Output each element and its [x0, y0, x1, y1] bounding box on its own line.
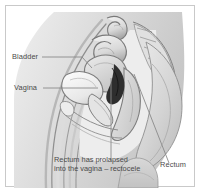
caption-line-2: into the vagina – rectocele: [54, 164, 140, 173]
label-rectum: Rectum: [160, 161, 186, 170]
label-vagina: Vagina: [14, 84, 37, 93]
caption-line-1: Rectum has prolapsed: [54, 155, 140, 164]
caption-rectocele: Rectum has prolapsed into the vagina – r…: [54, 155, 140, 174]
label-bladder: Bladder: [12, 53, 38, 62]
rectocele-figure: Bladder Vagina Rectum Rectum has prolaps…: [0, 0, 202, 194]
